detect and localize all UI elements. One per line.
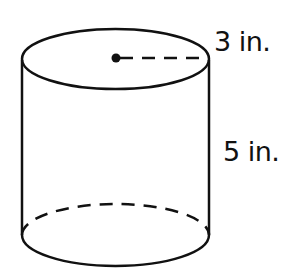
height-label: 5 in. (223, 138, 279, 165)
cylinder-bottom-back-arc-dashed (22, 204, 209, 235)
cylinder-bottom-front-arc (22, 235, 209, 266)
cylinder-diagram: 3 in. 5 in. (0, 0, 295, 278)
radius-label: 3 in. (214, 28, 270, 55)
